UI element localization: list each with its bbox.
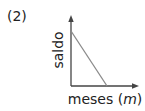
data-line-saldo (71, 31, 107, 86)
x-axis-label: meses (m) (68, 91, 142, 107)
x-axis-label-text: meses ( (68, 91, 123, 107)
y-axis-label: saldo (50, 31, 66, 68)
x-axis-arrow-icon (132, 83, 139, 88)
y-axis-arrow-icon (68, 15, 73, 22)
x-axis-label-close: ) (137, 91, 142, 107)
x-axis-label-variable: m (123, 91, 137, 107)
